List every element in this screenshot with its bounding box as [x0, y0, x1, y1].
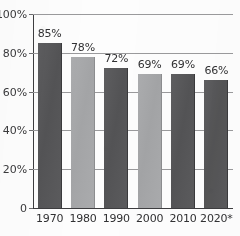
bar-column: 72%: [104, 14, 128, 208]
y-axis-tick: [29, 92, 33, 93]
x-axis-tick-label: 1980: [69, 212, 96, 225]
y-axis-tick-label: 20%: [3, 163, 27, 176]
bar-column: 85%: [38, 14, 62, 208]
x-axis-tick-label: 2010: [169, 212, 196, 225]
x-axis-tick-label: 2000: [136, 212, 163, 225]
gridline: [33, 130, 233, 131]
x-axis-tick-label: 1970: [36, 212, 63, 225]
bar-column: 69%: [171, 14, 195, 208]
bar-value-label: 72%: [104, 52, 128, 65]
bar-value-label: 69%: [171, 58, 195, 71]
x-axis-tick-label: 2020*: [200, 212, 233, 225]
gridline: [33, 92, 233, 93]
bar-column: 66%: [204, 14, 228, 208]
y-axis-tick: [29, 14, 33, 15]
plot-area: 85%78%72%69%69%66%: [33, 14, 233, 208]
bar-chart: 85%78%72%69%69%66% 020%40%60%80%100% 197…: [0, 0, 240, 236]
bar: [204, 80, 228, 208]
bar-value-label: 69%: [138, 58, 162, 71]
bar-column: 78%: [71, 14, 95, 208]
bar: [38, 43, 62, 208]
gridline: [33, 14, 233, 15]
bar-value-label: 66%: [204, 64, 228, 77]
y-axis-tick: [29, 169, 33, 170]
y-axis-tick-label: 40%: [3, 124, 27, 137]
y-axis-tick: [29, 130, 33, 131]
gridline: [33, 169, 233, 170]
bar-column: 69%: [138, 14, 162, 208]
bar-value-label: 85%: [38, 27, 62, 40]
y-axis-tick: [29, 208, 33, 209]
axis-baseline: [33, 208, 233, 209]
bar-value-label: 78%: [71, 41, 95, 54]
bar: [171, 74, 195, 208]
y-axis-tick-label: 100%: [0, 8, 27, 21]
bar: [71, 57, 95, 208]
y-axis-tick: [29, 53, 33, 54]
chart-title-clipped: [0, 0, 240, 4]
y-axis-tick-label: 60%: [3, 85, 27, 98]
y-axis-tick-label: 80%: [3, 46, 27, 59]
gridline: [33, 53, 233, 54]
bar: [138, 74, 162, 208]
x-axis-tick-label: 1990: [103, 212, 130, 225]
bar: [104, 68, 128, 208]
y-axis-tick-label: 0: [20, 202, 27, 215]
